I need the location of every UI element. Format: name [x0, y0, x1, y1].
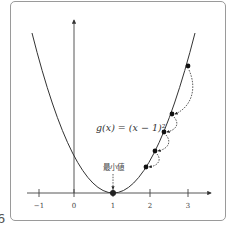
- tick-label-3: 3: [186, 202, 190, 210]
- parabola-diagram: −1 0 1 2 3 最小値 g(x) = (x − 1)²: [0, 0, 228, 229]
- function-label: g(x) = (x − 1)²: [96, 122, 166, 133]
- tick-label-2: 2: [148, 202, 152, 210]
- minimum-point: [110, 190, 116, 196]
- minimum-label: 最小値: [103, 162, 125, 172]
- iterate-points: [144, 64, 191, 170]
- tick-label-neg1: −1: [34, 202, 44, 210]
- tick-label-1: 1: [111, 202, 115, 210]
- tick-label-0: 0: [72, 202, 76, 210]
